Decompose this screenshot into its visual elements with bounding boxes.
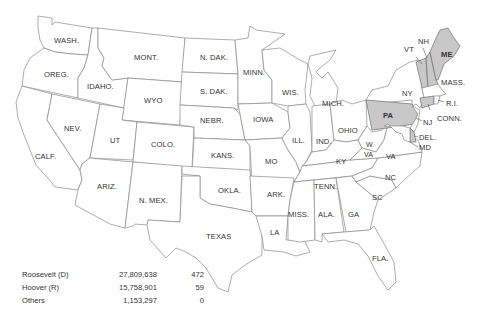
label-wva-1: W. <box>366 141 374 148</box>
label-va: VA <box>386 152 396 161</box>
label-ind: IND. <box>316 137 332 146</box>
label-nebr: NEBR. <box>200 116 224 125</box>
results-row-roosevelt: Roosevelt (D) 27,809,638 472 <box>22 268 204 281</box>
label-ohio: OHIO <box>338 126 358 135</box>
label-ky: KY <box>336 157 346 166</box>
label-nmex: N. MEX. <box>139 196 168 205</box>
label-mich: MICH. <box>322 99 344 108</box>
popular-vote: 15,758,901 <box>97 283 157 292</box>
label-ri: R.I. <box>446 99 458 108</box>
candidate-name: Hoover (R) <box>22 283 97 292</box>
label-nj: NJ <box>423 118 432 127</box>
candidate-name: Others <box>22 296 97 305</box>
label-idaho: IDAHO. <box>87 82 114 91</box>
label-mass: MASS. <box>441 78 465 87</box>
results-row-hoover: Hoover (R) 15,758,901 59 <box>22 281 204 294</box>
label-wis: WIS. <box>282 88 299 97</box>
label-colo: COLO. <box>151 140 175 149</box>
leader-nh <box>423 48 427 58</box>
electoral-vote: 0 <box>157 296 204 305</box>
label-wash: WASH. <box>54 36 79 45</box>
label-me: ME <box>441 50 453 59</box>
label-sc: SC <box>372 193 383 202</box>
label-nev: NEV. <box>64 124 81 133</box>
label-calf: CALF. <box>35 152 56 161</box>
label-miss: MISS. <box>288 210 309 219</box>
label-tenn: TENN. <box>314 182 337 191</box>
state-ariz <box>75 158 133 228</box>
label-la: LA <box>270 228 280 237</box>
label-nc: NC <box>385 173 396 182</box>
state-ri <box>434 96 440 104</box>
electoral-vote: 59 <box>157 283 204 292</box>
electoral-vote: 472 <box>157 270 204 279</box>
label-okla: OKLA. <box>218 186 241 195</box>
label-ga: GA <box>348 210 359 219</box>
label-sdak: S. DAK. <box>200 87 228 96</box>
label-nh: NH <box>418 37 429 46</box>
popular-vote: 27,809,638 <box>97 270 157 279</box>
label-iowa: IOWA <box>253 115 273 124</box>
label-del: DEL. <box>419 133 436 142</box>
label-ala: ALA. <box>318 210 335 219</box>
label-ny: NY <box>402 89 413 98</box>
label-ariz: ARIZ. <box>97 182 117 191</box>
label-fla: FLA. <box>372 254 388 263</box>
popular-vote: 1,153,297 <box>97 296 157 305</box>
election-map-1932: WASH. OREG. CALF. IDAHO. NEV. MONT. WYO … <box>0 0 478 317</box>
results-table: Roosevelt (D) 27,809,638 472 Hoover (R) … <box>22 268 204 307</box>
label-wva-2: VA <box>364 151 373 158</box>
label-ill: ILL. <box>292 136 305 145</box>
candidate-name: Roosevelt (D) <box>22 270 97 279</box>
label-vt: VT <box>404 45 414 54</box>
results-row-others: Others 1,153,297 0 <box>22 294 204 307</box>
label-kans: KANS. <box>211 151 234 160</box>
label-ark: ARK. <box>267 190 285 199</box>
state-conn <box>420 96 434 108</box>
label-md: MD <box>419 143 431 152</box>
label-mo: MO <box>265 157 277 166</box>
state-nmex <box>125 162 182 228</box>
label-ndak: N. DAK. <box>200 53 228 62</box>
label-conn: CONN. <box>437 114 462 123</box>
label-mont: MONT. <box>134 53 158 62</box>
label-ut: UT <box>110 136 120 145</box>
label-wyo: WYO <box>144 96 162 105</box>
label-pa: PA <box>383 111 393 120</box>
label-minn: MINN. <box>243 68 265 77</box>
label-texas: TEXAS <box>206 232 231 241</box>
label-oreg: OREG. <box>44 70 69 79</box>
